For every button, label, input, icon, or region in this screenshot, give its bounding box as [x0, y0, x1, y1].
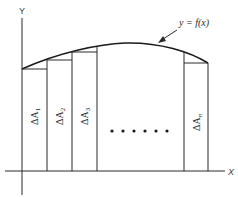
svg-text:ΔA2: ΔA2 — [54, 107, 67, 125]
svg-text:ΔA3: ΔA3 — [79, 107, 92, 125]
svg-text:ΔA1: ΔA1 — [29, 107, 42, 125]
area-label-2: ΔA2 — [54, 107, 67, 125]
y-axis-label: Y — [19, 6, 25, 16]
area-label-3: ΔA3 — [79, 107, 92, 125]
svg-text:ΔAn: ΔAn — [191, 113, 204, 131]
function-label: y = f(x) — [178, 17, 210, 29]
area-label-1: ΔA1 — [29, 107, 42, 125]
riemann-sum-diagram: Y X ΔA1 ΔA2 ΔA3 ΔAn — [0, 0, 238, 197]
area-label-n: ΔAn — [191, 113, 204, 131]
rectangle-n — [184, 52, 208, 171]
x-axis-label: X — [227, 167, 235, 177]
arrow-icon — [158, 30, 177, 43]
ellipsis-dots — [110, 129, 168, 132]
function-curve — [22, 43, 208, 69]
